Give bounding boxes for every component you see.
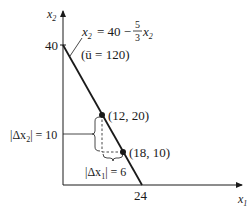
y-axis-label: x2 [46, 7, 56, 23]
point-12-20 [99, 112, 105, 118]
delta-x2-label: |Δx2| = 10 [10, 128, 57, 144]
diagram-svg: x2 x1 40 24 x2 = 40 − 5 3 x2 (ū = 120) (… [0, 0, 249, 207]
delta-x1-label: |Δx1| = 6 [85, 165, 126, 181]
svg-text:5: 5 [135, 19, 140, 30]
svg-text:3: 3 [135, 32, 140, 43]
budget-line-diagram: x2 x1 40 24 x2 = 40 − 5 3 x2 (ū = 120) (… [0, 0, 249, 207]
y-intercept-label: 40 [45, 38, 58, 53]
svg-text:x2: x2 [142, 24, 153, 41]
utility-label: (ū = 120) [81, 47, 130, 62]
svg-text:x2: x2 [81, 24, 92, 41]
delta-x1-brace [103, 154, 123, 161]
delta-x2-brace [92, 117, 100, 151]
point-18-10 [120, 149, 126, 155]
x-axis-label: x1 [237, 192, 247, 207]
equation-label: x2 = 40 − 5 3 x2 [81, 19, 153, 43]
svg-text:= 40 −: = 40 − [97, 24, 131, 39]
point-18-10-label: (18, 10) [129, 145, 170, 160]
point-12-20-label: (12, 20) [108, 108, 149, 123]
x-intercept-label: 24 [134, 188, 148, 203]
